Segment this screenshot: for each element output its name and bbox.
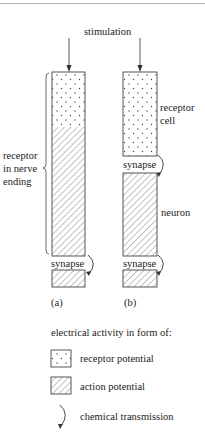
legend-label-receptor-potential: receptor potential: [80, 352, 154, 365]
chemical-transmission-arrow-b-upper: [158, 155, 163, 175]
synapse-label-b-upper: synapse: [123, 158, 156, 171]
side-label-line-1: receptor: [3, 149, 37, 162]
action-potential-region-a: [52, 127, 85, 256]
legend-heading: electrical activity in form of:: [51, 326, 172, 339]
stimulation-arrow-b: [138, 38, 143, 72]
legend-label-chemical-transmission: chemical transmission: [80, 410, 174, 423]
receptor-cell-label-line-1: receptor: [160, 101, 194, 114]
panel-a-column: [43, 72, 93, 287]
dotted-box-icon: [51, 350, 71, 367]
side-label-line-3: ending: [3, 175, 32, 188]
panel-a-caption: (a): [51, 296, 63, 309]
stimulation-arrow-a: [67, 38, 72, 72]
legend-label-action-potential: action potential: [80, 380, 145, 393]
side-label-line-2: in nerve: [3, 162, 37, 175]
brace-icon: [43, 73, 49, 254]
synapse-label-a: synapse: [51, 257, 84, 270]
curved-arrow-icon: [58, 405, 65, 429]
receptor-potential-region-a: [52, 72, 85, 127]
stimulation-label: stimulation: [84, 25, 131, 38]
receptor-cell-box: [123, 72, 157, 156]
hatched-box-icon: [51, 377, 71, 394]
next-neuron-segment-a: [52, 270, 85, 287]
panel-b-caption: (b): [124, 296, 136, 309]
neuron-box: [123, 173, 157, 256]
next-neuron-segment-b: [123, 270, 157, 287]
receptor-cell-label-line-2: cell: [160, 114, 175, 127]
synapse-label-b-lower: synapse: [123, 257, 156, 270]
neuron-label: neuron: [161, 206, 190, 219]
panel-b-column: [123, 72, 163, 287]
